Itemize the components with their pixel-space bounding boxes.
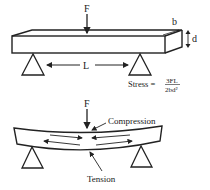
straight-beam (12, 30, 182, 53)
tension-pointer (90, 152, 102, 171)
beam-bending-diagram: F b d L Stress = 3FL 2bd² F Compression (0, 0, 210, 190)
tension-label: Tension (87, 174, 116, 184)
stress-numerator: 3FL (166, 77, 178, 85)
stress-denominator: 2bd² (165, 86, 178, 94)
stress-formula-prefix: Stress = (128, 79, 155, 89)
depth-label: d (192, 33, 197, 44)
support-right-bottom (131, 146, 152, 167)
force-label-top: F (84, 3, 90, 14)
bent-beam (14, 126, 162, 150)
support-left-bottom (22, 147, 43, 168)
width-label: b (172, 16, 177, 27)
depth-dimension (186, 30, 191, 48)
support-right-top (129, 54, 151, 75)
span-label: L (83, 60, 89, 71)
diagram-svg: F b d L Stress = 3FL 2bd² F Compression (0, 0, 210, 190)
force-label-bottom: F (84, 98, 90, 109)
compression-pointer (92, 123, 106, 130)
support-left-top (22, 54, 44, 75)
compression-label: Compression (108, 116, 156, 126)
